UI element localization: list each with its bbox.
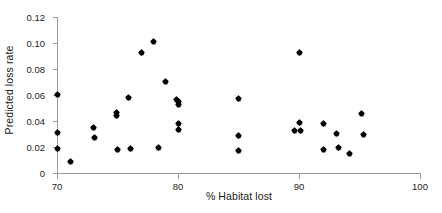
data-point [155, 144, 162, 151]
data-point [297, 127, 304, 134]
data-point [67, 158, 74, 165]
x-axis-title: % Habitat lost [57, 190, 421, 202]
data-point [358, 110, 365, 117]
y-tick-mark [53, 121, 57, 122]
x-tick-mark [420, 174, 421, 179]
data-point [53, 129, 60, 136]
y-tick-label: 0.04 [27, 116, 46, 127]
data-point [335, 144, 342, 151]
y-tick-mark [53, 69, 57, 70]
y-tick-label: 0.02 [27, 142, 46, 153]
y-tick-label: 0.06 [27, 90, 46, 101]
y-axis-title: Predicted loss rate [0, 0, 18, 180]
y-tick-mark [53, 17, 57, 18]
data-point [125, 94, 132, 101]
data-point [295, 119, 302, 126]
x-tick-mark [178, 174, 179, 179]
data-point [333, 130, 340, 137]
data-point [295, 49, 302, 56]
data-point [90, 124, 97, 131]
x-axis-line [57, 173, 421, 174]
y-tick-label: 0.10 [27, 38, 46, 49]
data-point [320, 120, 327, 127]
data-point [150, 38, 157, 45]
y-axis-title-text: Predicted loss rate [3, 46, 15, 135]
data-point [235, 131, 242, 138]
y-tick-mark [53, 43, 57, 44]
data-point [162, 78, 169, 85]
data-point [346, 150, 353, 157]
data-point [114, 146, 121, 153]
data-point [91, 134, 98, 141]
x-tick-mark [299, 174, 300, 179]
data-point [360, 131, 367, 138]
y-tick-label: 0 [40, 168, 45, 179]
data-point [138, 49, 145, 56]
y-tick-label: 0.12 [27, 12, 46, 23]
data-point [174, 126, 181, 133]
data-point [235, 147, 242, 154]
data-point [320, 146, 327, 153]
data-point [53, 91, 60, 98]
x-tick-mark [57, 174, 58, 179]
data-point [235, 95, 242, 102]
plot-area: 00.020.040.060.080.100.12 708090100 [57, 17, 420, 173]
y-tick-label: 0.08 [27, 64, 46, 75]
data-point [127, 145, 134, 152]
data-point [53, 145, 60, 152]
scatter-chart-figure: Predicted loss rate 00.020.040.060.080.1… [0, 0, 442, 213]
